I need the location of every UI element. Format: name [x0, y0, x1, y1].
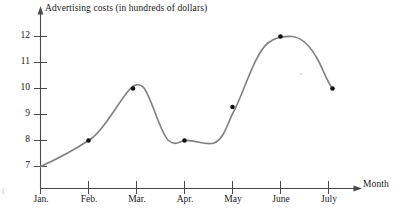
x-tick-label-feb: Feb.: [69, 194, 109, 204]
page-edge-artifact: f: [2, 186, 5, 196]
data-point-may: [230, 105, 235, 110]
x-tick-label-june: June: [261, 194, 301, 204]
x-tick-label-mar: Mar.: [117, 194, 157, 204]
advertising-cost-curve: [41, 36, 333, 166]
x-axis-arrowhead: [354, 186, 363, 192]
y-tick-label-11: 11: [14, 56, 30, 66]
data-point-mar: [131, 86, 136, 91]
y-axis-title: Advertising costs (in hundreds of dollar…: [45, 3, 207, 13]
data-point-feb: [86, 138, 91, 143]
y-tick-label-12: 12: [14, 30, 30, 40]
y-tick-label-9: 9: [14, 108, 30, 118]
x-tick-label-may: May: [213, 194, 253, 204]
x-axis-ticks: [41, 181, 329, 194]
data-point-june: [278, 34, 283, 39]
y-axis-arrowhead: [38, 6, 44, 15]
data-point-apr: [182, 138, 187, 143]
x-axis-title: Month: [363, 179, 389, 189]
advertising-costs-line-chart: Advertising costs (in hundreds of dollar…: [0, 0, 405, 219]
x-tick-label-jan: Jan.: [21, 194, 61, 204]
data-point-markers: [86, 34, 335, 143]
chart-plot-area: [0, 0, 405, 219]
x-tick-label-july: July: [309, 194, 349, 204]
scan-speck-artifact: [300, 73, 302, 75]
y-tick-label-10: 10: [14, 82, 30, 92]
y-tick-label-7: 7: [14, 160, 30, 170]
x-tick-label-apr: Apr.: [165, 194, 205, 204]
y-tick-label-8: 8: [14, 134, 30, 144]
data-point-july: [330, 86, 335, 91]
